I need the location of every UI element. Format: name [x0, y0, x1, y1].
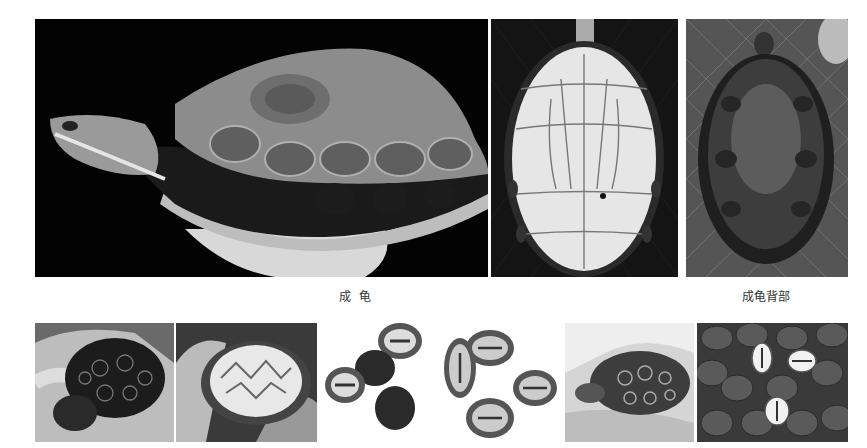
juvenile-plastron-illustration — [176, 323, 317, 442]
photo-juvenile-side-hand — [565, 323, 694, 442]
photo-hatchlings-pile — [697, 323, 848, 442]
photo-hatchlings-group-2 — [440, 323, 560, 442]
juvenile-side-illustration — [565, 323, 694, 442]
photo-juvenile-under-hand — [176, 323, 317, 442]
photo-adult-side — [35, 19, 488, 277]
hatchlings-plastron-illustration — [440, 323, 560, 442]
photo-adult-plastron — [491, 19, 678, 277]
caption-adult-turtle-back: 成龟背部 — [742, 287, 790, 304]
photo-adult-carapace — [686, 19, 848, 277]
caption-adult-turtle: 成 龟 — [339, 287, 371, 304]
juvenile-carapace-illustration — [35, 323, 174, 442]
turtle-side-illustration — [35, 19, 488, 277]
hatchlings-pile-illustration — [697, 323, 848, 442]
photo-juvenile-top-hand — [35, 323, 174, 442]
hatchlings-illustration — [320, 323, 430, 442]
turtle-carapace-illustration — [686, 19, 848, 277]
turtle-plastron-illustration — [491, 19, 678, 277]
photo-hatchlings-group-1 — [320, 323, 430, 442]
